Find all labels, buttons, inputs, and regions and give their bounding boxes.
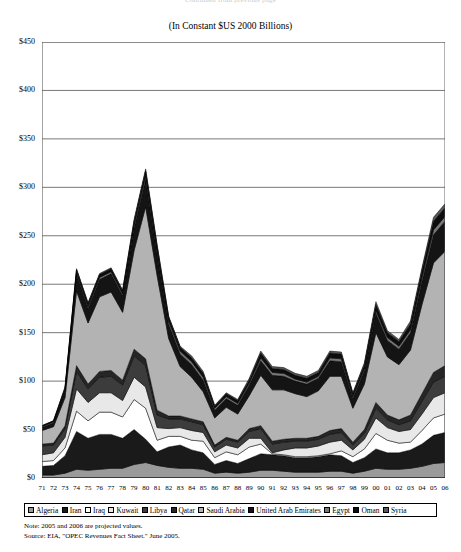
legend-item[interactable]: Iraq [85,505,105,515]
stacked-area-chart [42,42,445,478]
legend-item[interactable]: Syria [383,505,407,515]
chart-title: (In Constant $US 2000 Billions) [0,20,461,32]
legend-swatch-icon [353,507,359,513]
y-axis-tick-label: $300 [19,183,35,191]
legend-swatch-icon [85,507,91,513]
legend-item[interactable]: Qatar [171,505,195,515]
legend-swatch-icon [142,507,148,513]
legend-item-label: Saudi Arabia [206,506,244,515]
legend-swatch-icon [108,507,114,513]
legend-item-label: Algeria [36,506,58,515]
y-axis-tick-label: $0 [27,474,35,482]
legend-item-label: Syria [391,506,407,515]
chart-legend: AlgeriaIranIraqKuwaitLibyaQatarSaudi Ara… [24,503,437,517]
y-axis-tick-label: $50 [23,426,35,434]
legend-item[interactable]: United Arab Emirates [248,505,320,515]
legend-item-label: Qatar [179,506,195,515]
legend-swatch-icon [383,507,389,513]
y-axis-tick-label: $200 [19,280,35,288]
legend-swatch-icon [62,507,68,513]
legend-item[interactable]: Libya [142,505,167,515]
legend-swatch-icon [248,507,254,513]
chart-footnotes: Note: 2005 and 2006 are projected values… [24,521,180,541]
chart-page: Continued from previous page (In Constan… [0,0,461,552]
y-axis-tick-label: $150 [19,329,35,337]
legend-item-label: United Arab Emirates [256,506,320,515]
y-axis-labels: $0$50$100$150$200$250$300$350$400$450 [0,0,40,552]
y-axis-tick-label: $450 [19,38,35,46]
y-axis-tick-label: $400 [19,86,35,94]
legend-item[interactable]: Algeria [28,505,58,515]
legend-swatch-icon [28,507,34,513]
footnote-line: Source: EIA, "OPEC Revenues Fact Sheet."… [24,531,180,541]
legend-swatch-icon [171,507,177,513]
legend-swatch-icon [198,507,204,513]
legend-item[interactable]: Saudi Arabia [198,505,244,515]
clipped-header-text: Continued from previous page [0,0,461,5]
legend-item-label: Iraq [93,506,105,515]
x-axis-tick-label: 06 [437,484,453,493]
legend-item-label: Libya [150,506,167,515]
y-axis-tick-label: $100 [19,377,35,385]
legend-item-label: Oman [361,506,379,515]
clipped-page-header: Continued from previous page [0,0,461,10]
legend-item[interactable]: Egypt [324,505,350,515]
legend-swatch-icon [324,507,330,513]
legend-item[interactable]: Oman [353,505,379,515]
legend-item-label: Kuwait [116,506,138,515]
plot-area [42,42,445,478]
x-axis-labels: 7172737475767778798081828384858687888990… [42,484,445,496]
legend-item[interactable]: Iran [62,505,82,515]
legend-item[interactable]: Kuwait [108,505,138,515]
y-axis-tick-label: $250 [19,232,35,240]
legend-item-label: Egypt [332,506,350,515]
y-axis-tick-label: $350 [19,135,35,143]
footnote-line: Note: 2005 and 2006 are projected values… [24,521,180,531]
legend-item-label: Iran [70,506,82,515]
